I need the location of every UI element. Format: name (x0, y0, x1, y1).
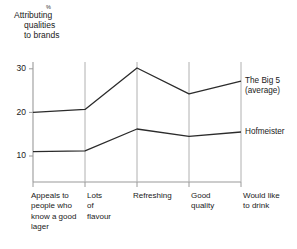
chart-container: % Attributing qualities to brands (0, 0, 297, 249)
series-label-big5-line-1: The Big 5 (245, 76, 280, 86)
x-tick-label-appeals-line-4: lager (31, 222, 85, 232)
x-axis-ticks (33, 182, 241, 187)
x-tick-label-flavour-line-2: of (87, 201, 135, 211)
series-label-hofmeister: Hofmeister (245, 127, 285, 137)
x-tick-label-good-quality-line-1: Good (191, 191, 239, 201)
x-tick-label-good-quality: Good quality (191, 191, 239, 212)
series-label-big5-line-2: (average) (245, 86, 280, 96)
x-tick-label-refreshing: Refreshing (133, 191, 187, 201)
y-tick-label-10: 10 (6, 151, 26, 160)
x-tick-label-would-like-line-1: Would like (243, 191, 295, 201)
x-tick-label-appeals-line-1: Appeals to (31, 191, 85, 201)
y-tick-label-20: 20 (6, 108, 26, 117)
x-tick-label-good-quality-line-2: quality (191, 201, 239, 211)
series-label-big5: The Big 5 (average) (245, 76, 280, 96)
series-label-hofmeister-line-1: Hofmeister (245, 127, 285, 137)
x-tick-label-appeals: Appeals to people who know a good lager (31, 191, 85, 233)
x-tick-label-would-like: Would like to drink (243, 191, 295, 212)
x-tick-label-flavour-line-1: Lots (87, 191, 135, 201)
x-tick-label-flavour: Lots of flavour (87, 191, 135, 222)
x-tick-label-appeals-line-2: people who (31, 201, 85, 211)
x-tick-label-would-like-line-2: to drink (243, 201, 295, 211)
vertical-gridlines (85, 62, 241, 182)
x-tick-label-appeals-line-3: know a good (31, 212, 85, 222)
y-tick-label-30: 30 (6, 64, 26, 73)
x-tick-label-flavour-line-3: flavour (87, 212, 135, 222)
x-tick-label-refreshing-line-1: Refreshing (133, 191, 187, 201)
y-axis-ticks (29, 69, 33, 156)
